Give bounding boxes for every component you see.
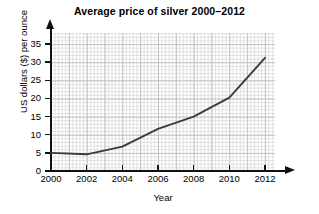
y-axis-tick-label: 5 xyxy=(1,148,41,158)
x-axis-title: Year xyxy=(51,192,275,203)
y-axis-title: US dollars ($) per ounce xyxy=(18,0,29,137)
x-axis-tick-label: 2000 xyxy=(31,174,71,184)
y-axis-tick xyxy=(45,80,51,81)
x-axis-tick-label: 2006 xyxy=(138,174,178,184)
y-axis-arrow-icon xyxy=(46,19,54,29)
x-axis-tick xyxy=(86,165,87,171)
x-axis-tick xyxy=(157,165,158,171)
x-axis-tick-label: 2004 xyxy=(102,174,142,184)
x-axis-arrow-icon xyxy=(285,166,295,174)
y-axis-tick xyxy=(45,152,51,153)
y-axis-tick xyxy=(45,134,51,135)
x-axis-tick-label: 2012 xyxy=(245,174,285,184)
x-axis-tick xyxy=(193,165,194,171)
y-axis-tick xyxy=(45,98,51,99)
x-axis-tick xyxy=(229,165,230,171)
x-axis-tick xyxy=(122,165,123,171)
y-axis-line xyxy=(50,28,52,172)
y-axis-tick xyxy=(45,116,51,117)
x-axis-tick-label: 2010 xyxy=(209,174,249,184)
chart-title: Average price of silver 2000–2012 xyxy=(0,5,319,17)
y-axis-tick xyxy=(45,61,51,62)
y-axis-tick xyxy=(45,43,51,44)
x-axis-tick-label: 2008 xyxy=(174,174,214,184)
x-axis-tick xyxy=(264,165,265,171)
x-axis-tick xyxy=(50,165,51,171)
plot-area xyxy=(51,33,275,171)
silver-price-chart-figure: Average price of silver 2000–2012 051015… xyxy=(0,0,319,214)
x-axis-tick-label: 2002 xyxy=(67,174,107,184)
